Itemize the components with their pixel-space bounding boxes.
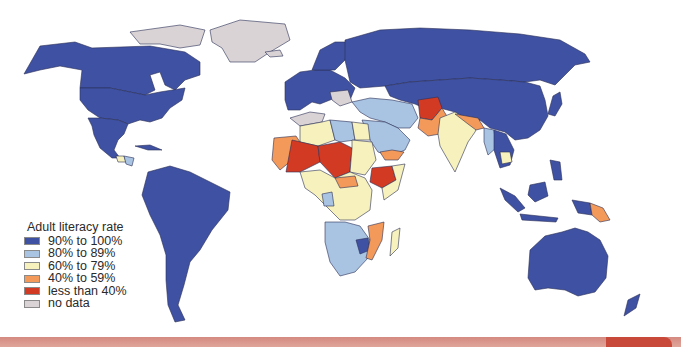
decorative-bottom-strip	[0, 337, 681, 347]
region-mexico	[88, 118, 128, 158]
region-cambodia-laos	[500, 152, 512, 164]
region-central-america-b	[124, 156, 134, 166]
region-alaska-canada	[24, 42, 200, 95]
legend: Adult literacy rate 90% to 100% 80% to 8…	[24, 221, 127, 310]
region-indonesia-java	[520, 214, 558, 222]
region-egypt	[352, 122, 370, 140]
region-caribbean	[135, 145, 162, 150]
region-papua-new-guinea	[590, 203, 610, 222]
region-yemen	[380, 150, 404, 160]
legend-swatch	[24, 287, 40, 295]
region-south-america	[142, 166, 230, 322]
legend-swatch	[24, 250, 40, 258]
region-arctic-islands	[130, 25, 205, 48]
region-australia	[528, 228, 608, 296]
region-madagascar	[390, 228, 400, 256]
region-new-guinea-west	[572, 200, 592, 215]
region-scandinavia	[312, 42, 350, 70]
legend-swatch	[24, 262, 40, 270]
region-gabon-congo	[322, 192, 334, 206]
region-new-zealand	[624, 294, 640, 316]
region-philippines	[550, 160, 562, 180]
legend-swatch	[24, 237, 40, 245]
region-central-africa	[300, 170, 372, 220]
region-indonesia-sumatra	[500, 188, 525, 212]
region-japan	[548, 92, 562, 116]
region-indonesia-borneo	[528, 182, 548, 202]
legend-title: Adult literacy rate	[24, 221, 127, 234]
legend-label: no data	[48, 297, 90, 310]
legend-swatch	[24, 300, 40, 308]
decorative-bottom-cap	[606, 337, 672, 347]
legend-swatch	[24, 275, 40, 283]
legend-item-no-data: no data	[24, 298, 127, 311]
region-balkans	[330, 90, 352, 106]
